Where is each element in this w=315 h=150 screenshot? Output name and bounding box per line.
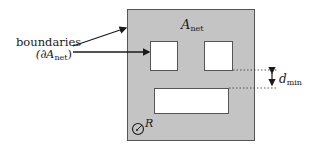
region-subscript: net bbox=[190, 24, 203, 33]
region-symbol: A bbox=[181, 17, 190, 32]
dmin-subscript: min bbox=[287, 78, 302, 87]
radius-label: R bbox=[145, 118, 153, 129]
radius-circle-icon bbox=[133, 124, 144, 135]
boundary-partial: (∂ bbox=[36, 47, 46, 61]
dmin-symbol: d bbox=[279, 72, 287, 86]
boundaries-notation: (∂Anet) bbox=[16, 49, 72, 62]
dmin-label: dmin bbox=[279, 73, 302, 87]
annotation-lines bbox=[0, 0, 315, 150]
boundaries-label: boundaries (∂Anet) bbox=[16, 37, 72, 62]
region-label: Anet bbox=[181, 18, 204, 33]
boundary-close: ) bbox=[68, 47, 73, 61]
boundary-subscript: net bbox=[54, 53, 67, 62]
